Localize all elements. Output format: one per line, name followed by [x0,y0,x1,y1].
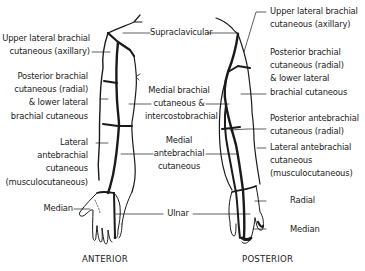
label-ulnar: Ulnar [163,207,193,220]
posterior-label-lateral-antebrachial: Lateral antebrachial cutaneous (musculoc… [270,141,353,181]
posterior-arm-drawing [216,18,263,243]
anterior-label-median: Median [43,202,73,215]
label-medial-antebrachial: Medial antebrachial cutaneous [150,134,208,174]
anterior-label-lateral-antebrachial: Lateral antebrachial cutaneous (musculoc… [5,136,88,189]
label-supraclavicular: Supraclavicular [150,26,208,39]
posterior-label-median: Median [290,223,320,236]
caption-anterior: ANTERIOR [82,254,128,264]
posterior-label-posterior-brachial: Posterior brachial cutaneous (radial) & … [270,46,347,99]
label-medial-brachial: Medial brachial cutaneous & intercostobr… [145,84,213,124]
posterior-label-radial: Radial [290,194,315,207]
anterior-label-upper-lateral-brachial: Upper lateral brachial cutaneous (axilla… [2,32,90,58]
posterior-label-posterior-antebrachial: Posterior antebrachial cutaneous (radial… [270,112,359,138]
posterior-label-upper-lateral-brachial: Upper lateral brachial cutaneous (axilla… [270,5,358,31]
caption-posterior: POSTERIOR [242,254,293,264]
anterior-label-posterior-brachial: Posterior brachial cutaneous (radial) & … [11,70,88,123]
